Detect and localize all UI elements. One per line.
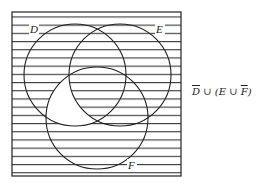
formula-union: ∪ [226,86,241,97]
formula-e: E [219,86,226,97]
formula-union-open: ∪ ( [200,86,219,97]
universe-shading [12,12,181,176]
formula-close: ) [248,86,252,97]
set-d-label: D [29,23,38,35]
set-formula: D ∪ (E ∪ F) [192,86,252,97]
formula-d-complement: D [192,86,200,97]
formula-f-complement: F [241,86,248,97]
set-f-label: F [127,159,135,171]
set-e-label: E [155,23,163,35]
